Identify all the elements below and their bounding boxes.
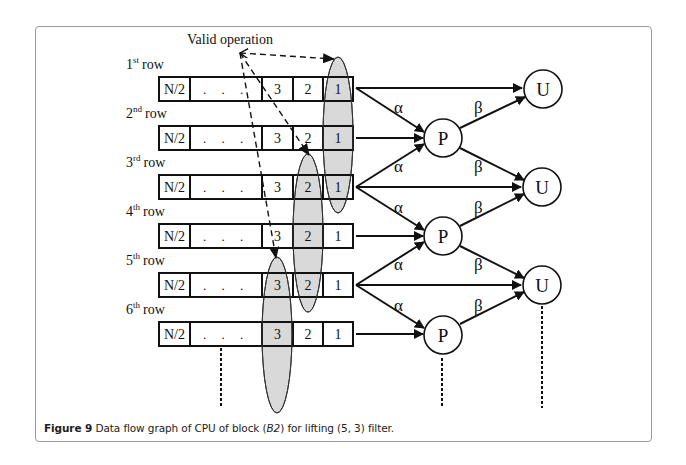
row-buffer: N/2. . .321 (159, 175, 353, 199)
annotation-valid-operation: Valid operation (187, 32, 273, 47)
buffer-cell-label: 3 (274, 327, 281, 342)
buffer-cell-label: . . . (203, 131, 249, 146)
row-label: 4throw (126, 202, 166, 219)
caption-block-name: B2 (267, 422, 281, 434)
row-label: 3rdrow (126, 153, 166, 170)
predict-node-label: P (438, 226, 449, 247)
predict-node-label: P (438, 325, 449, 346)
buffer-cell-label: . . . (203, 229, 249, 244)
row-buffer: N/2. . .321 (159, 322, 353, 346)
buffer-cell-label: 2 (305, 278, 312, 293)
figure-label: Figure 9 (44, 422, 92, 434)
buffer-cell-label: 2 (305, 327, 312, 342)
row-label: 2ndrow (126, 104, 168, 121)
buffer-cell-label: 1 (335, 82, 342, 97)
buffer-cell-label: N/2 (164, 278, 185, 293)
alpha-label: α (394, 296, 403, 315)
update-node-label: U (535, 177, 549, 198)
buffer-cell-label: 3 (274, 131, 281, 146)
row-buffer: N/2. . .321 (159, 77, 353, 101)
data-flow-graph: 1strowN/2. . .3212ndrowN/2. . .3213rdrow… (0, 0, 686, 465)
figure-caption: Figure 9 Data flow graph of CPU of block… (44, 422, 644, 434)
alpha-label: α (394, 198, 403, 217)
buffer-cell-label: 2 (305, 229, 312, 244)
beta-label: β (474, 157, 483, 176)
buffer-cell-label: 3 (274, 229, 281, 244)
beta-label: β (474, 296, 483, 315)
buffer-cell-label: 3 (274, 180, 281, 195)
row-label: 1strow (126, 55, 165, 72)
alpha-label: α (394, 98, 403, 117)
beta-label: β (474, 198, 483, 217)
buffer-cell-label: . . . (203, 327, 249, 342)
buffer-cell-label: . . . (203, 82, 249, 97)
buffer-cell-label: N/2 (164, 82, 185, 97)
beta-label: β (474, 255, 483, 274)
alpha-label: α (394, 255, 403, 274)
row-label: 5throw (126, 251, 166, 268)
buffer-cell-label: 1 (335, 229, 342, 244)
buffer-cell-label: 1 (335, 278, 342, 293)
buffer-cell-label: 1 (335, 180, 342, 195)
buffer-cell-label: 2 (305, 82, 312, 97)
buffer-cell-label: 3 (274, 278, 281, 293)
caption-text-post: ) for lifting (5, 3) filter. (280, 422, 394, 434)
buffer-cell-label: N/2 (164, 327, 185, 342)
alpha-label: α (394, 157, 403, 176)
buffer-cell-label: 2 (305, 180, 312, 195)
buffer-cell-label: . . . (203, 278, 249, 293)
row-buffer: N/2. . .321 (159, 224, 353, 248)
row-label: 6throw (126, 300, 166, 317)
predict-node-label: P (438, 128, 449, 149)
buffer-cell-label: N/2 (164, 131, 185, 146)
update-node-label: U (535, 275, 549, 296)
buffer-cell-label: 1 (335, 327, 342, 342)
caption-text-pre: Data flow graph of CPU of block ( (92, 422, 266, 434)
buffer-cell-label: N/2 (164, 180, 185, 195)
update-node-label: U (536, 79, 550, 100)
buffer-cell-label: 1 (335, 131, 342, 146)
buffer-cell-label: 3 (274, 82, 281, 97)
beta-label: β (474, 98, 483, 117)
row-buffer: N/2. . .321 (159, 273, 353, 297)
buffer-cell-label: . . . (203, 180, 249, 195)
buffer-cell-label: N/2 (164, 229, 185, 244)
buffer-cell-label: 2 (305, 131, 312, 146)
